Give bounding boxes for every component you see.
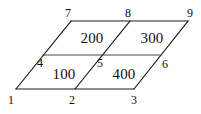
vertex-label-8: 8 bbox=[125, 7, 131, 19]
vertex-label-1: 1 bbox=[8, 94, 14, 106]
vertex-label-4: 4 bbox=[37, 57, 43, 69]
cell-label-400: 400 bbox=[112, 67, 135, 82]
vertex-label-5: 5 bbox=[97, 57, 103, 69]
vertex-label-7: 7 bbox=[65, 7, 71, 19]
vertex-label-3: 3 bbox=[131, 94, 137, 106]
cell-label-100: 100 bbox=[52, 67, 75, 82]
vertex-label-6: 6 bbox=[162, 58, 168, 70]
cell-label-200: 200 bbox=[80, 31, 103, 46]
cell-label-300: 300 bbox=[140, 31, 163, 46]
parallelogram-diagram: 1 2 3 4 5 6 7 8 9 100 400 200 300 bbox=[0, 0, 201, 114]
vertex-label-9: 9 bbox=[187, 7, 193, 19]
vertex-label-2: 2 bbox=[69, 94, 75, 106]
